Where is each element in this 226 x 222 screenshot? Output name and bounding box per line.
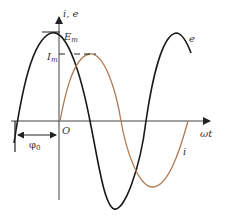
- i-curve-label: i: [183, 146, 186, 157]
- e-curve-label: e: [189, 33, 195, 44]
- origin-label: O: [62, 125, 70, 136]
- x-axis-label: ωt: [200, 128, 213, 139]
- y-axis-label: i, e: [63, 8, 79, 19]
- im-label: Im: [46, 51, 58, 64]
- phase-label: φ0: [29, 139, 40, 152]
- sine-wave-diagram: i, e ωt O Em Im e i φ0: [0, 0, 226, 222]
